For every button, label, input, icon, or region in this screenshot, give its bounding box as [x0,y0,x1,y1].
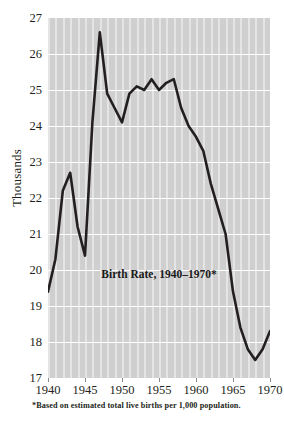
x-tick-mark-1940 [48,378,49,382]
x-tick-mark-1970 [270,378,271,382]
chart-footnote: *Based on estimated total live births pe… [32,401,262,410]
x-tick-mark-1950 [122,378,123,382]
x-tick-mark-1960 [196,378,197,382]
x-axis-tick-labels: 1940194519501955196019651970 [0,0,284,421]
x-tick-mark-1965 [233,378,234,382]
x-tick-mark-1955 [159,378,160,382]
x-tick-mark-1945 [85,378,86,382]
x-tick-label-1970: 1970 [248,384,284,397]
birth-rate-chart-figure: Thousands 2726252423222120191817 Birth R… [0,0,284,421]
